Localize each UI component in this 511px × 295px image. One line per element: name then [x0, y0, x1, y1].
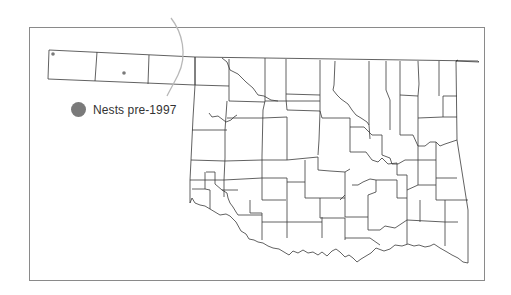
oklahoma-county-map [0, 0, 511, 295]
panhandle-county-line-2 [148, 55, 149, 84]
legend: Nests pre-1997 [71, 102, 176, 117]
panhandle-outline [48, 50, 195, 85]
legend-label: Nests pre-1997 [93, 103, 176, 117]
nest-marker-1 [51, 52, 55, 56]
panhandle-county-line-1 [95, 52, 97, 81]
nest-marker-2 [122, 71, 126, 75]
legend-nest-dot-icon [71, 102, 86, 117]
